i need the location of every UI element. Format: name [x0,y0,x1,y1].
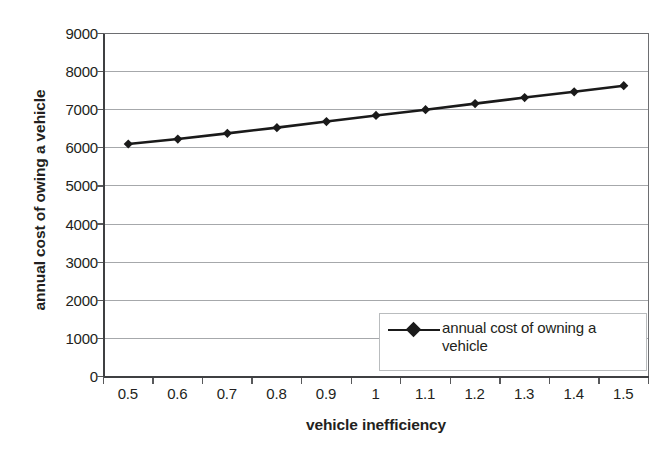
gridlines [104,34,649,339]
x-axis-tick-labels: 0.50.60.70.80.911.11.21.31.41.5 [103,386,649,408]
legend-label: annual cost of owning a vehicle [442,319,640,354]
data-point-marker [322,117,331,126]
x-axis-title: vehicle inefficiency [103,416,649,434]
data-point-marker [570,87,579,96]
x-axis-ticks [104,377,649,384]
legend-marker [386,320,442,340]
data-point-marker [470,99,479,108]
data-point-marker [272,123,281,132]
data-point-marker [421,105,430,114]
chart-legend: annual cost of owning a vehicle [379,313,647,371]
x-axis-tick-label: 1.5 [593,386,653,402]
data-point-marker [223,129,232,138]
data-point-marker [520,93,529,102]
legend-diamond-icon [406,322,422,338]
data-point-marker [371,111,380,120]
data-point-marker [173,134,182,143]
data-point-marker [619,81,628,90]
line-chart: annual cost of owing a vehicle 010002000… [0,0,668,460]
y-axis-ticks [97,34,104,377]
data-point-markers [124,81,629,149]
data-point-marker [124,139,133,148]
